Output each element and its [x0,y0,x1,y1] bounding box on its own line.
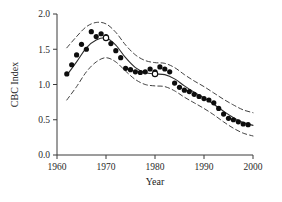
data-point-filled [167,69,172,74]
data-point-filled [133,69,138,74]
data-point-filled [94,34,99,39]
axis-labels: 0.00.51.01.52.019601970198019902000YearC… [9,9,263,187]
x-tick-label: 1990 [195,162,214,172]
data-point-filled [108,41,113,46]
data-point-filled [246,122,251,127]
x-tick-label: 2000 [244,162,263,172]
data-point-filled [162,66,167,71]
data-point-filled [148,66,153,71]
data-point-filled [187,89,192,94]
x-tick-label: 1960 [48,162,67,172]
y-tick-label: 2.0 [38,9,50,19]
data-point-filled [89,29,94,34]
data-point-filled [84,47,89,52]
y-tick-label: 1.0 [38,80,50,90]
data-point-filled [197,94,202,99]
data-point-filled [113,48,118,53]
data-point-filled [138,70,143,75]
data-point-filled [64,71,69,76]
data-point-filled [226,116,231,121]
y-axis-title: CBC Index [9,62,20,107]
axes [53,14,253,159]
confidence-bands [67,22,253,136]
x-tick-label: 1980 [146,162,165,172]
data-point-filled [241,121,246,126]
data-point-filled [79,42,84,47]
y-tick-label: 0.5 [38,115,50,125]
data-point-filled [172,80,177,85]
chart-figure: 0.00.51.01.52.019601970198019902000YearC… [0,0,282,202]
x-tick-label: 1970 [97,162,116,172]
x-axis-title: Year [146,176,165,187]
data-point-open [152,71,157,76]
data-point-filled [143,69,148,74]
data-point-filled [201,96,206,101]
data-point-filled [216,106,221,111]
data-point-filled [231,117,236,122]
data-point-filled [128,67,133,72]
data-point-filled [206,97,211,102]
data-point-filled [177,85,182,90]
data-point-filled [99,31,104,36]
data-point-filled [221,112,226,117]
data-point-filled [182,88,187,93]
data-point-filled [157,64,162,69]
data-point-filled [211,100,216,105]
cbc-index-scatter-plot: 0.00.51.01.52.019601970198019902000YearC… [0,0,282,202]
data-point-filled [192,92,197,97]
y-tick-label: 1.5 [38,45,50,55]
data-point-open [103,35,108,40]
data-point-filled [74,52,79,57]
data-point-filled [69,62,74,67]
data-point-filled [118,55,123,60]
data-point-filled [236,119,241,124]
axis-spine [57,14,253,155]
data-points [64,29,251,127]
y-tick-label: 0.0 [38,150,50,160]
data-point-filled [123,66,128,71]
